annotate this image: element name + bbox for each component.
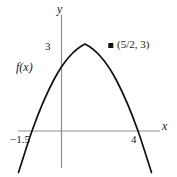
marked-point-label: (5/2, 3) (117, 39, 149, 50)
x-axis-label: x (162, 120, 167, 132)
x-intercept-right-tick-label: 4 (131, 134, 137, 145)
parabola-figure: y x 3 −1.5 4 f(x) (5/2, 3) (0, 0, 177, 177)
plot-canvas (0, 0, 177, 177)
y-intercept-tick-label: 3 (45, 41, 51, 52)
function-label: f(x) (16, 61, 33, 73)
x-intercept-left-tick-label: −1.5 (10, 134, 30, 145)
marked-point-marker (108, 43, 113, 48)
parabola-curve (19, 44, 152, 173)
y-axis-label: y (57, 3, 62, 15)
